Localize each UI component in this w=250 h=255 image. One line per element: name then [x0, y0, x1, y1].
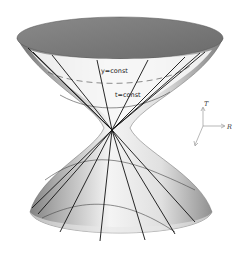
y-const-label: y=const	[101, 67, 128, 75]
axes-indicator	[194, 107, 225, 146]
axis-R-label: R	[226, 123, 232, 131]
t-const-label: t=const	[115, 91, 141, 99]
top-cap	[17, 17, 223, 59]
hyperboloid-figure: y=const t=const T R	[0, 0, 250, 255]
axis-T-label: T	[204, 100, 209, 108]
